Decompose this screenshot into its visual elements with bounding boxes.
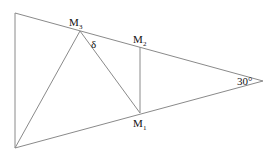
upper-ray — [15, 13, 263, 81]
angle-30-label: 30° — [237, 75, 252, 87]
segment-m3-m1 — [80, 31, 140, 113]
svg-text:1: 1 — [143, 124, 147, 132]
svg-text:M: M — [133, 117, 143, 129]
segment-origin-m3 — [15, 31, 80, 148]
label-m1: M 1 — [133, 117, 147, 132]
svg-text:3: 3 — [79, 23, 83, 31]
geometry-diagram: M 3 M 2 M 1 δ 30° — [0, 0, 280, 156]
svg-text:2: 2 — [143, 40, 147, 48]
angle-delta-label: δ — [91, 38, 96, 50]
svg-text:M: M — [69, 16, 79, 28]
lower-ray — [15, 81, 263, 148]
svg-text:M: M — [133, 33, 143, 45]
